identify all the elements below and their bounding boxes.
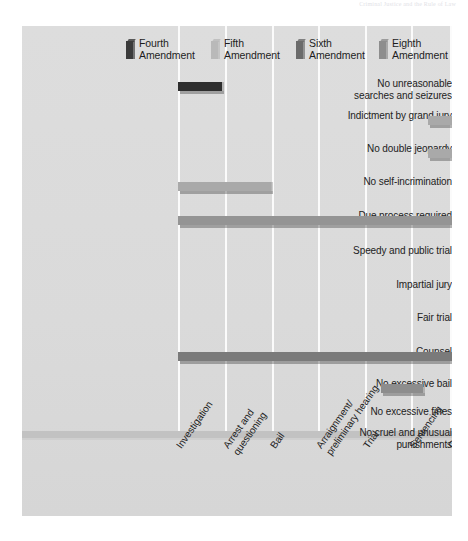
- legend-swatch-eighth: [379, 39, 388, 59]
- row-label-3: No self-incrimination: [310, 176, 452, 188]
- legend-item-label: Fourth Amendment: [139, 38, 195, 61]
- row-label-7: Fair trial: [310, 312, 452, 324]
- legend-swatch-fifth: [211, 39, 220, 59]
- bar-face: [178, 82, 222, 91]
- row-label-6: Impartial jury: [310, 279, 452, 291]
- bar-shadow: [430, 125, 452, 128]
- bar-face: [178, 216, 452, 225]
- bar-5[interactable]: [178, 216, 452, 225]
- bar-2[interactable]: [428, 149, 452, 158]
- bar-shadow: [180, 361, 452, 364]
- stage-axis-labels: InvestigationArrest and questioningBailA…: [22, 438, 452, 516]
- bar-shadow: [180, 225, 452, 228]
- bar-3[interactable]: [178, 182, 271, 191]
- bar-end-cap: [222, 82, 224, 91]
- bar-face: [178, 352, 452, 361]
- legend-item-label: Sixth Amendment: [309, 38, 365, 61]
- bar-0[interactable]: [178, 82, 222, 91]
- legend-item-2[interactable]: Sixth Amendment: [296, 38, 365, 61]
- bar-face: [428, 116, 452, 125]
- legend-item-label: Fifth Amendment: [224, 38, 280, 61]
- legend-swatch-fourth: [126, 39, 135, 59]
- legend-item-1[interactable]: Fifth Amendment: [211, 38, 280, 61]
- bar-end-cap: [271, 182, 273, 191]
- legend-item-label: Eighth Amendment: [392, 38, 448, 61]
- legend-swatch-sixth: [296, 39, 305, 59]
- bar-shadow: [430, 158, 452, 161]
- bar-1[interactable]: [428, 116, 452, 125]
- page-running-header: Criminal Justice and the Rule of Law: [359, 1, 456, 7]
- bar-face: [178, 182, 271, 191]
- gridline-1: [225, 26, 227, 432]
- gridline-2: [272, 26, 274, 432]
- bar-shadow: [180, 191, 273, 194]
- bar-face: [381, 384, 423, 393]
- chart-panel: Fourth AmendmentFifth AmendmentSixth Ame…: [22, 26, 452, 516]
- bar-10[interactable]: [381, 384, 423, 393]
- legend-item-3[interactable]: Eighth Amendment: [379, 38, 448, 61]
- bar-9[interactable]: [178, 352, 452, 361]
- row-label-5: Speedy and public trial: [310, 245, 452, 257]
- bar-end-cap: [423, 384, 425, 393]
- chart-legend: Fourth AmendmentFifth AmendmentSixth Ame…: [126, 38, 452, 70]
- bar-shadow: [180, 91, 224, 94]
- bar-face: [428, 149, 452, 158]
- legend-item-0[interactable]: Fourth Amendment: [126, 38, 195, 61]
- row-label-0: No unreasonable searches and seizures: [310, 78, 452, 101]
- bar-shadow: [383, 393, 425, 396]
